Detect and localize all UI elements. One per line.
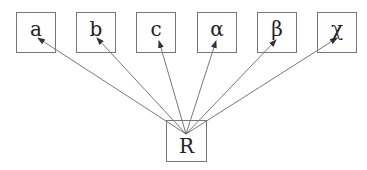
node-label: χ: [331, 17, 343, 52]
root-node-r: R: [166, 120, 207, 162]
node-label: α: [210, 17, 224, 52]
node-label: β: [271, 17, 283, 52]
node-beta: β: [257, 12, 297, 53]
node-label: c: [150, 17, 161, 52]
root-label: R: [179, 134, 194, 158]
node-b: b: [76, 12, 116, 53]
node-label: a: [30, 17, 42, 52]
node-alpha: α: [197, 12, 237, 53]
node-label: b: [90, 17, 103, 52]
node-a: a: [16, 12, 56, 53]
node-chi: χ: [317, 12, 357, 53]
node-c: c: [136, 12, 176, 53]
